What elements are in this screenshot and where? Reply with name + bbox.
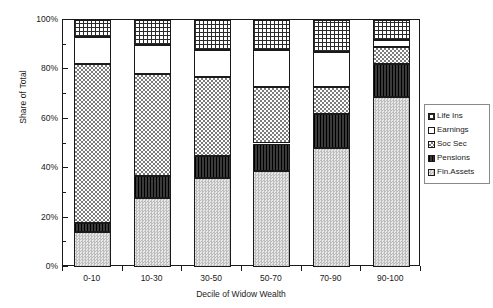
bar-segment-fin-assets	[74, 232, 111, 267]
legend-swatch-icon	[428, 113, 435, 120]
y-axis-tick-minor	[62, 143, 66, 144]
bar-segment-fin-assets	[134, 198, 171, 267]
y-axis-tick-minor	[62, 93, 66, 94]
y-axis-tick-major	[62, 167, 68, 168]
x-axis-tick-label-90-100: 90-100	[355, 273, 425, 283]
bar-segment-pensions	[194, 156, 231, 178]
chart-legend: Life InsEarningsSoc SecPensionsFin.Asset…	[424, 104, 490, 184]
legend-item-fin-assets[interactable]: Fin.Assets	[428, 165, 487, 179]
bar-segment-soc-sec	[134, 74, 171, 175]
bar-segment-pensions	[74, 223, 111, 233]
bar-segment-earnings	[313, 52, 350, 87]
x-axis-title: Decile of Widow Wealth	[62, 289, 420, 299]
x-axis-tick	[122, 266, 123, 271]
bar-segment-soc-sec	[194, 77, 231, 156]
bar-segment-fin-assets	[194, 178, 231, 267]
y-axis-tick-major	[62, 118, 68, 119]
y-axis-tick-major	[62, 68, 68, 69]
y-axis-tick-label: 40%	[18, 162, 58, 172]
bar-segment-soc-sec	[74, 64, 111, 222]
legend-item-label: Fin.Assets	[437, 168, 474, 176]
x-axis-tick	[241, 266, 242, 271]
y-axis-tick-minor	[62, 44, 66, 45]
legend-item-earnings[interactable]: Earnings	[428, 123, 487, 137]
bar-segment-life-ins	[373, 20, 410, 40]
legend-item-label: Life Ins	[437, 112, 463, 120]
x-axis-tick	[181, 266, 182, 271]
y-axis-tick-label: 20%	[18, 212, 58, 222]
bar-segment-pensions	[253, 144, 290, 171]
x-axis-tick	[420, 266, 421, 271]
bar-segment-fin-assets	[373, 97, 410, 267]
legend-item-soc-sec[interactable]: Soc Sec	[428, 137, 487, 151]
bar-70-90	[313, 20, 350, 267]
y-axis-tick-label: 0%	[18, 261, 58, 271]
bar-segment-pensions	[134, 176, 171, 198]
x-axis-tick	[62, 266, 63, 271]
bar-segment-soc-sec	[253, 87, 290, 144]
y-axis-tick-label: 100%	[18, 14, 58, 24]
bar-segment-life-ins	[74, 20, 111, 37]
bar-90-100	[373, 20, 410, 267]
legend-item-life-ins[interactable]: Life Ins	[428, 109, 487, 123]
plot-area	[62, 19, 420, 266]
bar-10-30	[134, 20, 171, 267]
bar-segment-life-ins	[194, 20, 231, 50]
bar-30-50	[194, 20, 231, 267]
bar-segment-earnings	[74, 37, 111, 64]
bar-segment-life-ins	[134, 20, 171, 45]
bar-segment-pensions	[313, 114, 350, 149]
legend-item-pensions[interactable]: Pensions	[428, 151, 487, 165]
bar-segment-soc-sec	[373, 47, 410, 64]
y-axis-tick-label: 60%	[18, 113, 58, 123]
x-axis-tick	[360, 266, 361, 271]
legend-swatch-icon	[428, 169, 435, 176]
bar-segment-earnings	[134, 45, 171, 75]
legend-swatch-icon	[428, 155, 435, 162]
bar-segment-earnings	[253, 50, 290, 87]
bar-segment-life-ins	[313, 20, 350, 52]
y-axis-tick-major	[62, 19, 68, 20]
bar-segment-earnings	[194, 50, 231, 77]
x-axis-tick	[301, 266, 302, 271]
legend-swatch-icon	[428, 127, 435, 134]
bar-segment-earnings	[373, 40, 410, 47]
y-axis-tick-label: 80%	[18, 63, 58, 73]
stacked-bar-chart-figure: Share of Total 0%20%40%60%80%100% Decile…	[0, 0, 493, 308]
bar-50-70	[253, 20, 290, 267]
y-axis-tick-labels: 0%20%40%60%80%100%	[12, 19, 58, 266]
bar-segment-pensions	[373, 64, 410, 96]
bar-segment-fin-assets	[313, 148, 350, 267]
y-axis-tick-minor	[62, 241, 66, 242]
legend-item-label: Pensions	[437, 154, 470, 162]
bar-segment-soc-sec	[313, 87, 350, 114]
bar-segment-life-ins	[253, 20, 290, 50]
bar-0-10	[74, 20, 111, 267]
y-axis-tick-major	[62, 217, 68, 218]
bar-segment-fin-assets	[253, 171, 290, 267]
legend-item-label: Earnings	[437, 126, 469, 134]
y-axis-tick-minor	[62, 192, 66, 193]
legend-swatch-icon	[428, 141, 435, 148]
legend-item-label: Soc Sec	[437, 140, 467, 148]
